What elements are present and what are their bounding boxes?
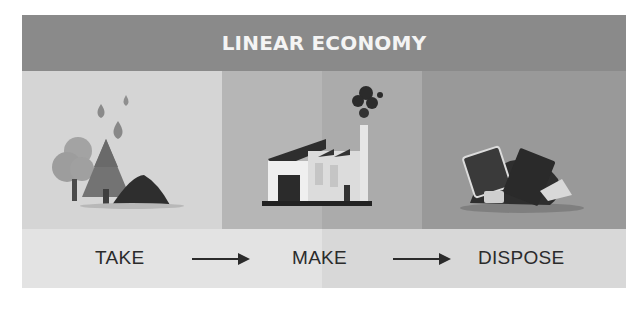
trees-water-soil-icon xyxy=(22,71,222,229)
arrow-right-icon xyxy=(393,253,453,265)
arrow-right-icon xyxy=(192,253,252,265)
process-steps: TAKE MAKE DISPOSE xyxy=(22,229,626,288)
diagram-header: LINEAR ECONOMY xyxy=(22,15,626,71)
illustration-panels xyxy=(22,71,626,229)
linear-economy-diagram: LINEAR ECONOMY xyxy=(22,15,626,288)
step-dispose: DISPOSE xyxy=(478,247,565,269)
factory-smoke-icon xyxy=(222,71,422,229)
dispose-panel xyxy=(422,71,626,229)
take-panel xyxy=(22,71,222,229)
waste-pile-icon xyxy=(422,71,626,229)
diagram-title: LINEAR ECONOMY xyxy=(222,31,427,55)
step-take: TAKE xyxy=(95,247,144,269)
step-make: MAKE xyxy=(292,247,347,269)
make-panel xyxy=(222,71,422,229)
